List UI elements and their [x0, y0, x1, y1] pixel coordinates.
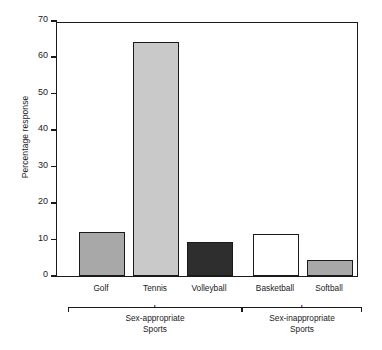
y-axis-title: Percentage response	[20, 57, 30, 217]
bracket-cap-left	[242, 307, 243, 312]
group-label-line1: Sex-inappropriate	[242, 313, 362, 324]
bracket-center-nub	[154, 305, 155, 308]
y-tick-label: 0	[22, 269, 48, 279]
y-tick-mark	[51, 239, 57, 241]
y-tick-label: 70	[22, 14, 48, 24]
group-label-sex-inappropriate: Sex-inappropriate Sports	[242, 313, 362, 334]
bar-softball	[307, 260, 353, 276]
y-tick-mark	[51, 56, 57, 58]
y-tick-label: 50	[22, 87, 48, 97]
y-tick-label: 40	[22, 123, 48, 133]
y-tick-mark	[51, 275, 57, 277]
y-tick-mark	[51, 20, 57, 22]
group-label-line2: Sports	[68, 324, 242, 335]
plot-area: 010203040506070	[56, 22, 358, 277]
group-label-sex-appropriate: Sex-appropriate Sports	[68, 313, 242, 334]
y-tick-label: 30	[22, 160, 48, 170]
bar-chart-figure: Percentage response 010203040506070 Golf…	[0, 0, 382, 350]
bar-basketball	[253, 234, 299, 276]
y-tick-mark	[51, 202, 57, 204]
bracket-cap-right	[361, 307, 362, 312]
y-tick-mark	[51, 129, 57, 131]
group-bracket-sex-appropriate	[68, 303, 242, 312]
bar-tennis	[133, 42, 179, 276]
group-label-line1: Sex-appropriate	[68, 313, 242, 324]
bracket-cap-left	[68, 307, 69, 312]
bar-volleyball	[187, 242, 233, 276]
y-tick-label: 10	[22, 233, 48, 243]
bar-golf	[79, 232, 125, 276]
group-label-line2: Sports	[242, 324, 362, 335]
group-bracket-sex-inappropriate	[242, 303, 362, 312]
y-tick-mark	[51, 93, 57, 95]
y-tick-label: 60	[22, 50, 48, 60]
x-label-softball: Softball	[284, 283, 374, 293]
y-tick-mark	[51, 166, 57, 168]
bracket-center-nub	[301, 305, 302, 308]
y-tick-label: 20	[22, 196, 48, 206]
